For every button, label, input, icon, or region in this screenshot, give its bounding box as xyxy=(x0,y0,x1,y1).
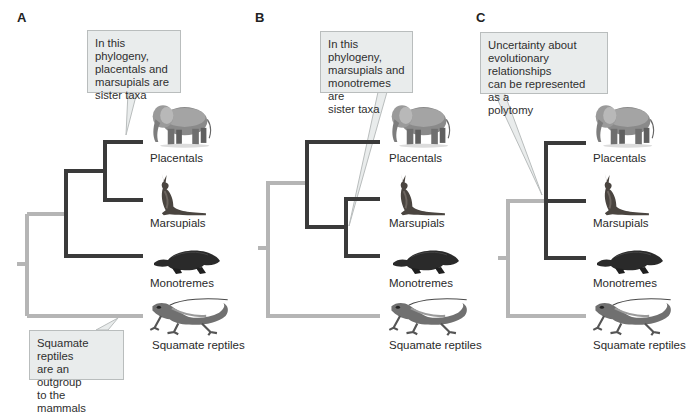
kangaroo-icon xyxy=(391,172,449,218)
taxon-label-marsupials: Marsupials xyxy=(389,217,445,229)
taxon-label-marsupials: Marsupials xyxy=(593,217,649,229)
taxon-label-placentals: Placentals xyxy=(593,152,646,164)
kangaroo-icon xyxy=(152,172,210,218)
taxon-label-placentals: Placentals xyxy=(150,152,203,164)
elephant-icon xyxy=(147,100,213,150)
panel-b: B In this phylogeny, marsupials and mono… xyxy=(232,0,464,376)
taxon-label-squamate-reptiles: Squamate reptiles xyxy=(152,339,245,351)
panel-a: A In this phylogeny, placentals and mars… xyxy=(0,0,232,376)
lizard-icon xyxy=(589,295,675,339)
taxon-label-squamate-reptiles: Squamate reptiles xyxy=(593,339,686,351)
taxon-label-monotremes: Monotremes xyxy=(593,277,657,289)
taxon-label-monotremes: Monotremes xyxy=(150,277,214,289)
callout-polytomy: Uncertainty about evolutionary relations… xyxy=(480,32,608,94)
platypus-icon xyxy=(146,243,228,279)
callout-sister-taxa: In this phylogeny, marsupials and monotr… xyxy=(320,31,413,93)
elephant-icon xyxy=(386,100,452,150)
taxon-label-monotremes: Monotremes xyxy=(389,277,453,289)
panel-c: C Uncertainty about evolutionary relatio… xyxy=(464,0,696,376)
lizard-icon xyxy=(146,295,232,339)
elephant-icon xyxy=(590,100,656,150)
callout-outgroup: Squamate reptiles are an outgroup to the… xyxy=(29,330,124,380)
kangaroo-icon xyxy=(595,172,653,218)
taxon-label-marsupials: Marsupials xyxy=(150,217,206,229)
taxon-label-placentals: Placentals xyxy=(389,152,442,164)
platypus-icon xyxy=(385,243,467,279)
platypus-icon xyxy=(589,243,671,279)
callout-sister-taxa: In this phylogeny, placentals and marsup… xyxy=(87,30,181,93)
lizard-icon xyxy=(385,295,471,339)
